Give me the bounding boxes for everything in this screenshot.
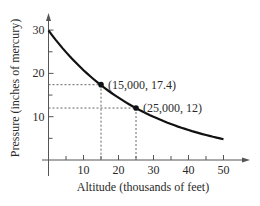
x-tick-label: 30 <box>148 163 160 177</box>
data-point <box>133 105 139 111</box>
y-tick-label: 10 <box>33 110 45 124</box>
axes <box>42 13 250 176</box>
y-tick-label: 20 <box>33 66 45 80</box>
x-tick-label: 50 <box>218 163 230 177</box>
x-tick-label: 10 <box>78 163 90 177</box>
pressure-altitude-chart: 1020304050102030 (15,000, 17.4)(25,000, … <box>0 0 260 206</box>
y-tick-label: 30 <box>33 23 45 37</box>
point-label: (25,000, 12) <box>143 101 202 115</box>
dashed-guides <box>49 85 137 160</box>
y-axis-label: Pressure (inches of mercury) <box>8 19 22 157</box>
data-points: (15,000, 17.4)(25,000, 12) <box>98 78 202 115</box>
data-point <box>98 82 104 88</box>
x-axis-arrow-icon <box>242 158 250 163</box>
x-tick-label: 40 <box>183 163 195 177</box>
x-tick-label: 20 <box>113 163 125 177</box>
x-axis-label: Altitude (thousands of feet) <box>77 180 209 194</box>
y-axis-arrow-icon <box>46 13 51 21</box>
point-label: (15,000, 17.4) <box>108 78 176 92</box>
